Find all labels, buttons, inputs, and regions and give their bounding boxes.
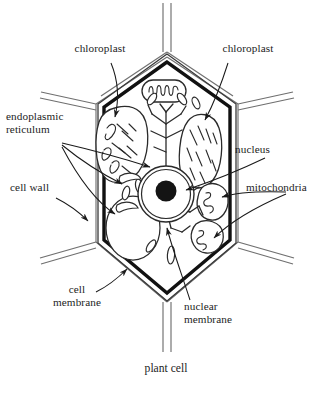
label-cell-wall: cell wall [10,181,90,194]
nucleus [138,166,194,222]
label-nucleus: nucleus [235,143,315,156]
nucleolus [156,181,177,202]
cell-illustration [0,0,332,395]
label-chloroplast-right: chloroplast [203,42,293,55]
label-chloroplast-left: chloroplast [55,42,145,55]
label-cell-membrane: cell membrane [44,283,110,308]
label-mitochondria: mitochondria [246,181,332,194]
plant-cell-diagram: chloroplast chloroplast endoplasmic reti… [0,0,332,395]
label-endoplasmic-reticulum: endoplasmic reticulum [6,110,98,135]
mitochondrion-right-lower [191,221,223,253]
leader-cell-wall [56,198,88,221]
mitochondrion-right-upper [197,184,228,220]
label-nuclear-membrane: nuclear membrane [184,300,268,325]
figure-caption: plant cell [0,362,332,375]
